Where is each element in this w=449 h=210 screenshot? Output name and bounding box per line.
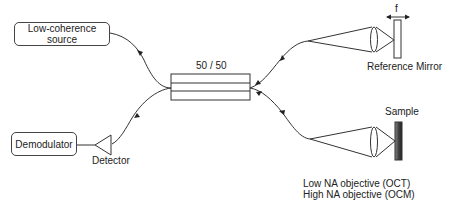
source-label-line2: source — [47, 34, 77, 45]
demodulator-box: Demodulator — [11, 132, 77, 156]
coupler-label: 50 / 50 — [196, 60, 227, 72]
detector-icon — [95, 135, 111, 155]
sample-lens — [371, 127, 378, 157]
reference-lens — [371, 27, 378, 52]
demodulator-label: Demodulator — [15, 139, 72, 150]
objective-note-ocm: High NA objective (OCM) — [303, 189, 415, 201]
sample-label: Sample — [385, 106, 419, 118]
reference-mirror — [394, 20, 401, 58]
source-fiber — [110, 33, 171, 88]
detector-label: Detector — [92, 155, 130, 167]
scan-f-label: f — [395, 3, 398, 15]
coupler-box — [171, 74, 250, 100]
reference-mirror-label: Reference Mirror — [367, 61, 442, 73]
sample-slab — [395, 122, 402, 160]
low-coherence-source-box: Low-coherence source — [14, 22, 110, 46]
source-label-line1: Low-coherence — [28, 23, 96, 34]
detector-fiber — [112, 88, 171, 144]
